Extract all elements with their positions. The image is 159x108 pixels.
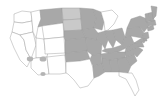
state-michigan[interactable] bbox=[101, 10, 118, 31]
state-florida[interactable] bbox=[119, 72, 139, 96]
state-alabama[interactable] bbox=[110, 59, 119, 72]
state-texas[interactable] bbox=[66, 59, 94, 88]
state-wyoming[interactable] bbox=[42, 23, 64, 39]
marker-southwest-1[interactable] bbox=[27, 57, 33, 62]
state-new-mexico[interactable] bbox=[47, 55, 66, 74]
state-colorado[interactable] bbox=[44, 37, 65, 54]
state-washington[interactable] bbox=[14, 11, 32, 23]
state-south-dakota[interactable] bbox=[63, 19, 82, 31]
marker-southwest-2[interactable] bbox=[40, 56, 47, 61]
state-kansas[interactable] bbox=[65, 38, 87, 53]
state-north-dakota[interactable] bbox=[62, 8, 81, 20]
marker-southwest-3[interactable] bbox=[40, 72, 45, 76]
us-choropleth-map bbox=[0, 0, 159, 108]
map-svg bbox=[0, 0, 159, 108]
